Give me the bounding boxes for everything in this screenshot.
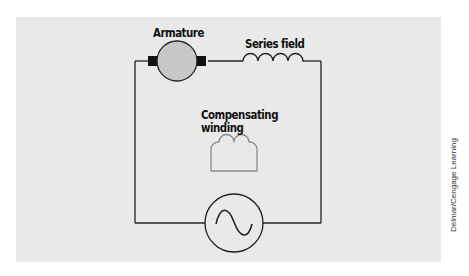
circuit-diagram [0,0,469,276]
series-field-label: Series field [245,37,304,51]
image-credit: Delmar/Cengage Learning [449,138,458,232]
armature-circle-icon [157,41,197,81]
armature-label: Armature [153,26,204,40]
compensating-winding-label-line2: winding [201,121,243,135]
armature-symbol [148,41,206,81]
series-field-coil-icon [243,54,304,61]
sine-wave-icon [216,210,252,235]
compensating-winding-coil-icon [211,135,257,172]
circuit-wires [135,61,321,223]
ac-source-symbol [205,194,263,252]
